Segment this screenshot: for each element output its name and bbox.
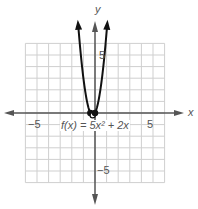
y-tick-pos5: 5	[99, 50, 105, 61]
parabola-graph	[0, 0, 198, 209]
x-tick-pos5: 5	[147, 119, 153, 130]
marked-points	[88, 110, 98, 118]
x-tick-neg5: −5	[28, 119, 41, 130]
function-label: f(x) = 5x² + 2x	[60, 120, 130, 131]
y-axis-label: y	[95, 4, 101, 15]
y-tick-neg5: −5	[97, 165, 110, 176]
curve-arrows	[75, 20, 110, 30]
x-axis-label: x	[188, 107, 194, 118]
